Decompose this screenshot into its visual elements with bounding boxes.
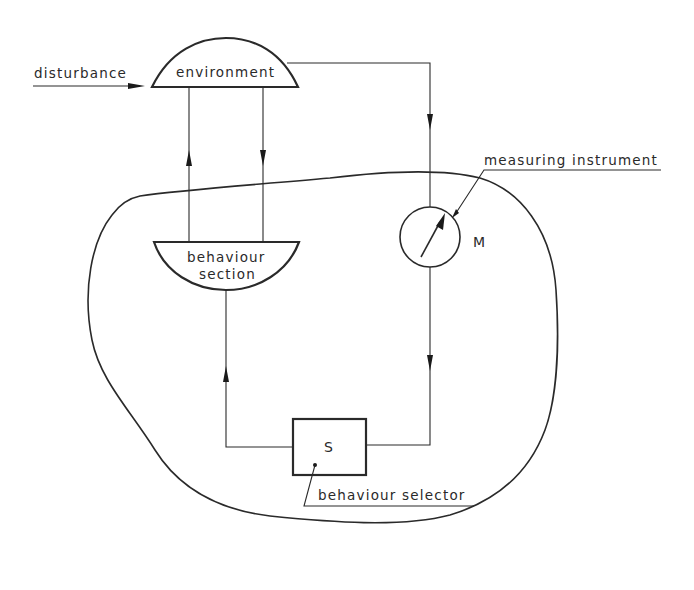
system-diagram: disturbance environment behaviour sectio…: [0, 0, 694, 590]
down-arrowhead-right: [260, 150, 266, 166]
measuring-instrument-symbol: M: [473, 234, 485, 250]
measuring-instrument-label: measuring instrument: [484, 152, 658, 168]
behaviour-section-label-line1: behaviour: [187, 249, 266, 265]
edge-selector-to-behaviour: [226, 290, 293, 447]
organism-boundary: [88, 172, 557, 523]
disturbance-arrowhead: [128, 83, 145, 89]
environment-label: environment: [176, 64, 275, 80]
up-arrowhead-left: [186, 150, 192, 166]
measuring-instrument-leader: [456, 170, 661, 213]
gauge-needle: [421, 222, 440, 257]
down-arrowhead-measuring: [427, 114, 433, 130]
behaviour-section-label-line2: section: [199, 266, 256, 282]
behaviour-selector-symbol: S: [324, 439, 333, 455]
edge-environment-to-measuring: [287, 63, 430, 207]
up-arrowhead-behaviour: [223, 366, 229, 382]
down-arrowhead-selector: [427, 355, 433, 371]
measuring-instrument-node: [400, 207, 460, 267]
disturbance-label: disturbance: [34, 65, 127, 81]
selector-leader-dot: [313, 463, 317, 467]
edge-measuring-to-selector: [366, 267, 430, 445]
behaviour-selector-label: behaviour selector: [318, 487, 466, 503]
